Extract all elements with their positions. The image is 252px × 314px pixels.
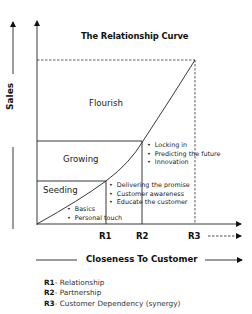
- legend-text: Relationship: [60, 278, 105, 287]
- legend-item-r2: R2- Partnership: [44, 289, 101, 296]
- legend-key: R1: [44, 278, 55, 287]
- legend-text: Partnership: [60, 288, 102, 297]
- legend-key: R2: [44, 288, 55, 297]
- flourish-bullets: Locking in Predicting the future Innovat…: [147, 141, 221, 167]
- marker-r2: R2: [136, 232, 149, 241]
- diagram-title: The Relationship Curve: [81, 32, 188, 40]
- marker-r1: R1: [99, 232, 112, 241]
- bullet-item: Basics: [67, 205, 122, 214]
- bullet-item: Delivering the promise: [109, 181, 190, 190]
- x-axis-label: Closeness To Customer: [86, 255, 197, 264]
- growing-bullets: Delivering the promise Customer awarenes…: [109, 181, 190, 207]
- region-flourish: Flourish: [89, 99, 123, 108]
- legend-key: R3: [44, 299, 55, 308]
- bullet-item: Locking in: [147, 141, 221, 150]
- legend-text: Customer Dependency (synergy): [60, 299, 181, 308]
- seeding-bullets: Basics Personal touch: [67, 205, 122, 222]
- y-axis-label: Sales: [6, 83, 15, 110]
- legend-item-r1: R1- Relationship: [44, 279, 104, 286]
- marker-r3: R3: [188, 232, 201, 241]
- bullet-item: Innovation: [147, 158, 221, 167]
- bullet-item: Predicting the future: [147, 150, 221, 159]
- region-seeding: Seeding: [43, 186, 78, 195]
- bullet-item: Personal touch: [67, 214, 122, 223]
- legend-item-r3: R3- Customer Dependency (synergy): [44, 300, 180, 307]
- bullet-item: Customer awareness: [109, 190, 190, 199]
- region-growing: Growing: [63, 155, 99, 164]
